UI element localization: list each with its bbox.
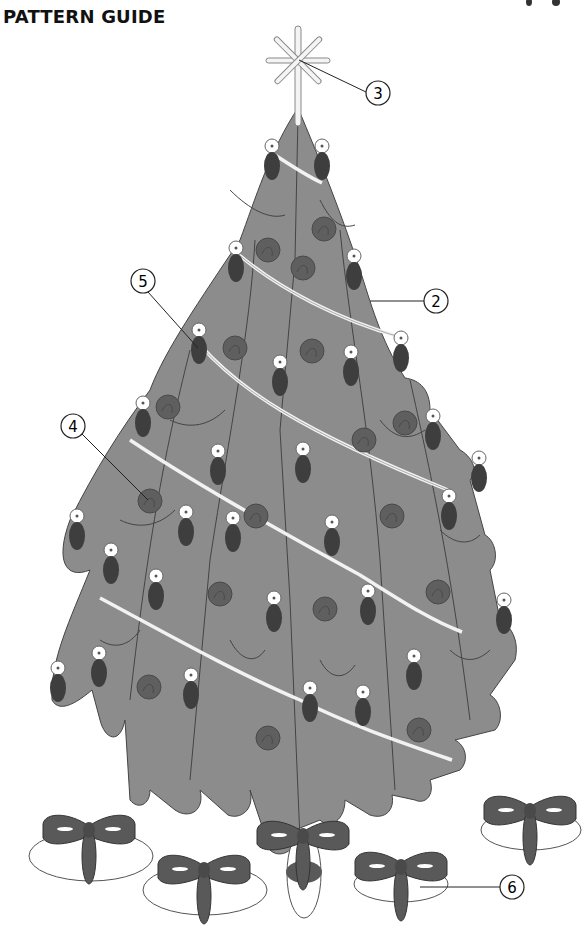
svg-text:3: 3 xyxy=(373,85,383,103)
star-topper xyxy=(266,26,330,126)
svg-text:4: 4 xyxy=(68,418,78,436)
callout-2: 2 xyxy=(370,289,448,313)
tree-body xyxy=(52,108,516,854)
callout-3: 3 xyxy=(299,60,390,105)
callout-5: 5 xyxy=(131,269,198,348)
cropped-corner-graphic xyxy=(526,0,560,6)
tree-diagram: 3 2 5 4 6 xyxy=(0,0,588,933)
svg-text:5: 5 xyxy=(138,273,148,291)
svg-text:6: 6 xyxy=(507,879,517,897)
svg-text:2: 2 xyxy=(431,293,441,311)
